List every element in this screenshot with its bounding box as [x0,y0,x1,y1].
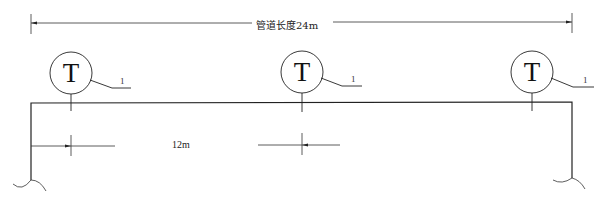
instrument-symbol-middle: T [282,57,322,87]
instrument-tag-right: 1 [583,75,588,85]
instrument-symbol-left: T [51,58,91,88]
pipe-break-icon [13,178,585,191]
instrument-symbol-right: T [512,57,552,87]
instrument-tag-left: 1 [120,76,125,86]
instrument-tag-middle: 1 [351,74,356,84]
overall-length-label: 管道长度24m [252,17,322,32]
spacing-label: 12m [172,139,190,150]
pipe-line [31,102,572,180]
